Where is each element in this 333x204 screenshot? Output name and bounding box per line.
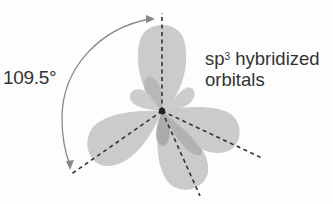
angle-label: 109.5° [3, 67, 56, 89]
orbital-label: sp3 hybridized orbitals [205, 48, 320, 90]
label-hybridized: hybridized [230, 48, 319, 69]
nucleus-dot [159, 108, 165, 114]
sp3-orbital-diagram: 109.5° sp3 hybridized orbitals [0, 0, 333, 204]
orbital-figure [0, 0, 333, 204]
lobe-lower-left [87, 111, 162, 166]
arrowhead-bottom-icon [66, 160, 74, 170]
label-sp: sp [205, 48, 225, 69]
arrowhead-top-icon [146, 15, 155, 23]
label-superscript: 3 [225, 51, 231, 62]
label-orbitals: orbitals [205, 69, 265, 90]
